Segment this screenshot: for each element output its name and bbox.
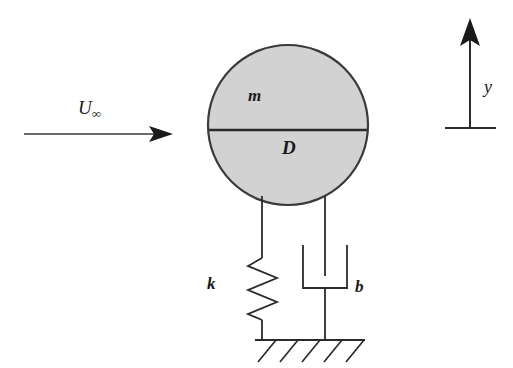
freestream-subscript: ∞ [92,106,101,121]
freestream-velocity-arrow [24,126,173,142]
y-axis-arrow [445,18,496,128]
diameter-label: D [282,138,296,157]
freestream-symbol: U [78,97,92,118]
freestream-velocity-label: U∞ [78,98,101,120]
displacement-axis-label: y [484,78,492,96]
ground-hatching [258,340,364,362]
cylinder-body [208,45,368,205]
mass-label: m [248,87,261,104]
damping-constant-label: b [355,278,364,295]
cylinder-outline [208,45,368,205]
spring-coil [248,258,277,320]
spring-constant-label: k [207,275,216,292]
figure-canvas: U∞ m D k b y [0,0,513,368]
schematic-drawing [0,0,513,368]
